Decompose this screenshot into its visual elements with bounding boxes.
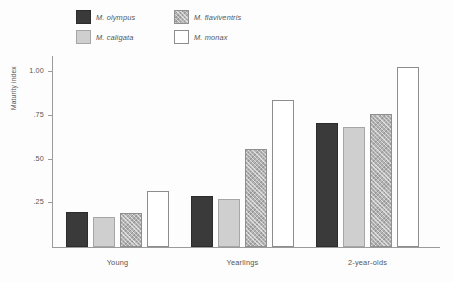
bar-2-year-olds-m-caligata bbox=[343, 127, 365, 247]
y-tick-3: .25 bbox=[48, 202, 53, 203]
legend-label-monax: M. monax bbox=[194, 33, 228, 42]
chart-legend: M. olympus M. flaviventris M. caligata M… bbox=[76, 10, 266, 44]
legend-entry-caligata: M. caligata bbox=[76, 30, 160, 44]
y-tick-label-3: .25 bbox=[33, 197, 44, 206]
plot-area: 1.00.75.50.25 bbox=[52, 56, 440, 248]
y-tick-label-0: 1.00 bbox=[29, 66, 44, 75]
bar-2-year-olds-m-olympus bbox=[316, 123, 338, 247]
legend-swatch-flaviventris bbox=[174, 10, 189, 24]
x-category-label-0: Young bbox=[107, 258, 129, 267]
bar-yearlings-m-flaviventris bbox=[245, 149, 267, 247]
y-tick-1: .75 bbox=[48, 115, 53, 116]
bar-2-year-olds-m-flaviventris bbox=[370, 114, 392, 247]
y-tick-2: .50 bbox=[48, 159, 53, 160]
bar-2-year-olds-m-monax bbox=[397, 67, 419, 247]
legend-label-flaviventris: M. flaviventris bbox=[194, 13, 241, 22]
x-category-label-1: Yearlings bbox=[227, 258, 259, 267]
x-category-label-2: 2-year-olds bbox=[348, 258, 387, 267]
bar-yearlings-m-monax bbox=[272, 100, 294, 247]
bar-chart-figure: M. olympus M. flaviventris M. caligata M… bbox=[0, 0, 453, 282]
legend-entry-flaviventris: M. flaviventris bbox=[174, 10, 266, 24]
legend-swatch-caligata bbox=[76, 30, 91, 44]
bar-yearlings-m-caligata bbox=[218, 199, 240, 247]
bar-young-m-monax bbox=[147, 191, 169, 247]
legend-swatch-monax bbox=[174, 30, 189, 44]
bar-young-m-olympus bbox=[66, 212, 88, 247]
legend-entry-monax: M. monax bbox=[174, 30, 266, 44]
y-tick-label-1: .75 bbox=[33, 110, 44, 119]
legend-label-caligata: M. caligata bbox=[96, 33, 133, 42]
bar-young-m-flaviventris bbox=[120, 213, 142, 247]
y-tick-0: 1.00 bbox=[48, 71, 53, 72]
y-axis-line bbox=[52, 56, 53, 248]
x-axis-line bbox=[52, 247, 440, 248]
y-axis-title: Maturity index bbox=[10, 66, 17, 110]
legend-swatch-olympus bbox=[76, 10, 91, 24]
bar-yearlings-m-olympus bbox=[191, 196, 213, 247]
legend-entry-olympus: M. olympus bbox=[76, 10, 160, 24]
legend-label-olympus: M. olympus bbox=[96, 13, 135, 22]
bar-young-m-caligata bbox=[93, 217, 115, 247]
y-tick-label-2: .50 bbox=[33, 154, 44, 163]
